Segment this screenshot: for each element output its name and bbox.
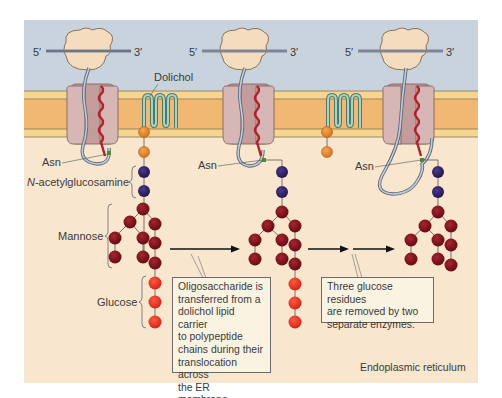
glucose-residue	[149, 296, 162, 309]
svg-text:Glucose: Glucose	[97, 296, 137, 308]
mannose-residue	[149, 237, 162, 250]
callout-oligosaccharide-transfer: Oligosaccharide is transferred from a do…	[172, 277, 271, 373]
glucose-residue	[289, 316, 302, 329]
asn-site-marker	[107, 151, 111, 155]
mannose-residue	[405, 253, 418, 266]
callout-glucose-trimming: Three glucose residues are removed by tw…	[321, 277, 434, 323]
glucose-residue	[289, 278, 302, 291]
mannose-residue	[445, 239, 458, 252]
svg-text:3′: 3′	[446, 46, 454, 58]
mannose-residue	[109, 232, 122, 245]
glcnac-residue	[432, 186, 444, 198]
mannose-residue	[432, 206, 445, 219]
mannose-residue	[276, 206, 289, 219]
phosphate-icon	[322, 127, 333, 138]
svg-text:3′: 3′	[290, 46, 298, 58]
svg-text:Asn: Asn	[198, 159, 217, 171]
svg-text:3′: 3′	[134, 46, 142, 58]
glucose-residue	[149, 277, 162, 290]
svg-text:5′: 5′	[33, 46, 41, 58]
mannose-residue	[432, 253, 445, 266]
mannose-residue	[276, 234, 289, 247]
glcnac-residue	[276, 166, 288, 178]
mannose-residue	[137, 232, 150, 245]
phosphate-icon	[139, 147, 150, 158]
phosphate-icon	[322, 147, 333, 158]
mannose-residue	[432, 234, 445, 247]
mannose-residue	[445, 259, 458, 272]
svg-text:Asn: Asn	[42, 156, 61, 168]
mannose-residue	[124, 216, 137, 229]
mannose-residue	[249, 253, 262, 266]
svg-text:5′: 5′	[189, 46, 197, 58]
mannose-residue	[445, 220, 458, 233]
mannose-residue	[262, 220, 275, 233]
glcnac-residue	[432, 166, 444, 178]
svg-text:Mannose: Mannose	[58, 230, 103, 242]
glcnac-residue	[276, 186, 288, 198]
mannose-residue	[137, 203, 150, 216]
mannose-residue	[419, 220, 432, 233]
glcnac-residue	[138, 166, 150, 178]
mannose-residue	[289, 239, 302, 252]
mannose-residue	[137, 251, 150, 264]
svg-text:Dolichol: Dolichol	[154, 71, 193, 83]
mannose-residue	[289, 258, 302, 271]
svg-text:Asn: Asn	[355, 160, 374, 172]
glcnac-residue	[138, 185, 150, 197]
mannose-residue	[149, 257, 162, 270]
mannose-residue	[149, 218, 162, 231]
glucose-residue	[149, 316, 162, 329]
phosphate-icon	[139, 127, 150, 138]
svg-text:N-acetylglucosamine: N-acetylglucosamine	[27, 176, 129, 188]
mannose-residue	[276, 253, 289, 266]
mannose-residue	[109, 251, 122, 264]
mannose-residue	[405, 234, 418, 247]
er-compartment-label: Endoplasmic reticulum	[360, 361, 466, 373]
glucose-residue	[289, 297, 302, 310]
mannose-residue	[289, 220, 302, 233]
svg-text:5′: 5′	[345, 46, 353, 58]
mannose-residue	[249, 234, 262, 247]
